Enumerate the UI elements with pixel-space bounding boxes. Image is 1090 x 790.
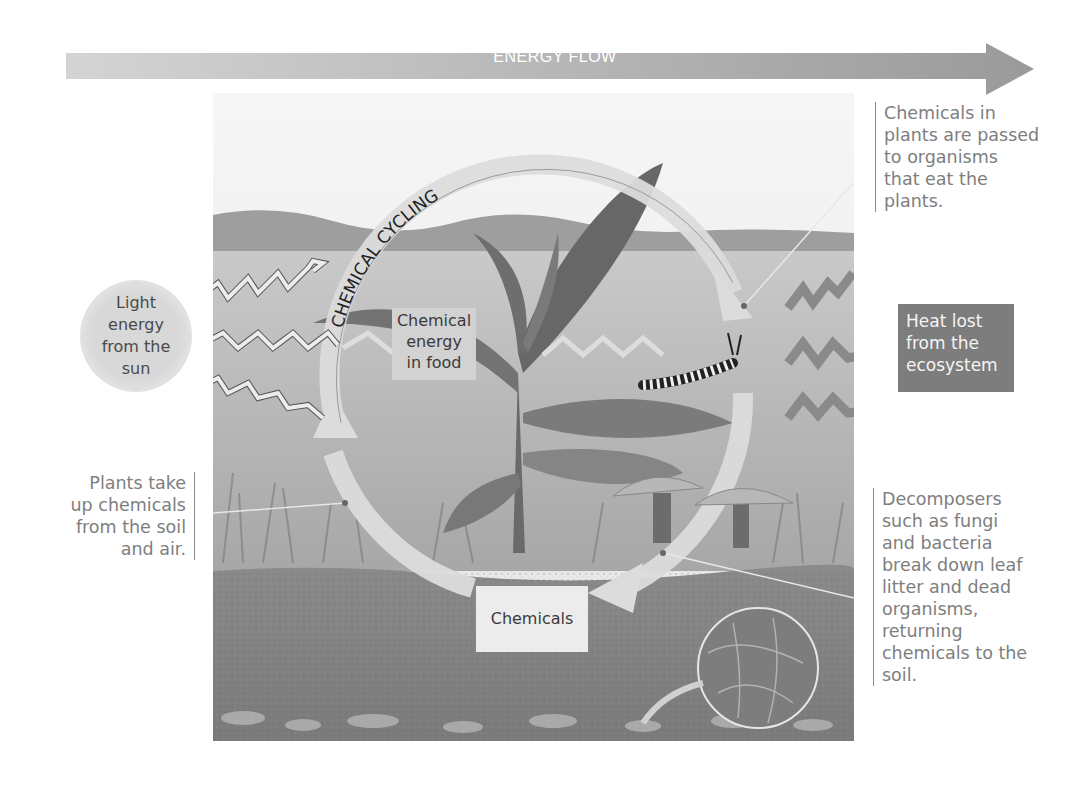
uptake-line-1: Plants take — [40, 472, 186, 494]
chemical-energy-line-1: Chemical — [392, 310, 476, 331]
chemicals-box: Chemicals — [476, 586, 588, 652]
uptake-line-4: and air. — [40, 538, 186, 560]
chemicals-label: Chemicals — [491, 609, 574, 628]
decomposers-line-7: returning — [882, 620, 1027, 642]
heat-lost-box: Heat lost from the ecosystem — [898, 304, 1014, 392]
uptake-line-2: up chemicals — [40, 494, 186, 516]
chemical-energy-line-3: in food — [392, 352, 476, 373]
decomposers-line-8: chemicals to the — [882, 642, 1027, 664]
decomposers-callout: Decomposers such as fungi and bacteria b… — [873, 488, 1027, 686]
chemical-energy-in-food-box: Chemical energy in food — [392, 308, 476, 380]
heat-line-3: ecosystem — [906, 354, 1006, 376]
decomposers-line-4: break down leaf — [882, 554, 1027, 576]
energy-flow-label: ENERGY FLOW — [470, 48, 640, 66]
sun-line-2: energy — [102, 314, 171, 336]
chemical-energy-line-2: energy — [392, 331, 476, 352]
decomposers-line-3: and bacteria — [882, 532, 1027, 554]
sun-line-3: from the — [102, 336, 171, 358]
decomposers-line-6: organisms, — [882, 598, 1027, 620]
sun-circle: Light energy from the sun — [80, 280, 192, 392]
consumers-line-1: Chemicals in — [884, 102, 1039, 124]
decomposers-line-5: litter and dead — [882, 576, 1027, 598]
consumers-line-2: plants are passed — [884, 124, 1039, 146]
consumers-line-3: to organisms — [884, 146, 1039, 168]
sun-line-1: Light — [102, 292, 171, 314]
heat-line-1: Heat lost — [906, 310, 1006, 332]
magnified-hyphae-circle-icon — [698, 608, 818, 728]
consumers-callout: Chemicals in plants are passed to organi… — [875, 102, 1039, 212]
uptake-line-3: from the soil — [40, 516, 186, 538]
decomposers-line-1: Decomposers — [882, 488, 1027, 510]
consumers-line-4: that eat the — [884, 168, 1039, 190]
decomposers-line-9: soil. — [882, 664, 1027, 686]
sun-line-4: sun — [102, 358, 171, 380]
decomposers-line-2: such as fungi — [882, 510, 1027, 532]
heat-line-2: from the — [906, 332, 1006, 354]
plants-uptake-callout: Plants take up chemicals from the soil a… — [40, 472, 195, 560]
consumers-line-5: plants. — [884, 190, 1039, 212]
